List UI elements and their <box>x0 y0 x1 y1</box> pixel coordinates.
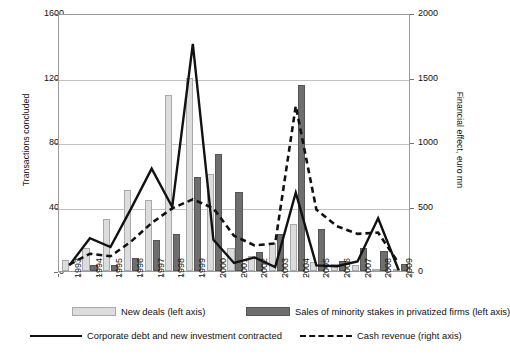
y-axis-left-tick-label: 0 <box>4 266 64 276</box>
x-axis-tick-mark <box>120 274 121 277</box>
x-axis-tick-mark <box>265 274 266 277</box>
y-axis-right-tick-label: 0 <box>418 266 478 276</box>
y-axis-left-tick-label: 1600 <box>4 8 64 18</box>
x-axis-tick-mark <box>306 274 307 277</box>
dark-bar-swatch-icon <box>246 307 290 316</box>
y-axis-right-tick-mark <box>410 143 414 144</box>
x-axis-tick-mark <box>348 274 349 277</box>
x-axis-tick-mark <box>369 274 370 277</box>
x-axis-tick-mark <box>286 274 287 277</box>
x-axis-tick-mark <box>58 274 59 277</box>
x-axis-tick-mark <box>410 274 411 277</box>
legend-item-minority-stakes: Sales of minority stakes in privatized f… <box>246 306 510 317</box>
x-axis-tick-mark <box>389 274 390 277</box>
y-axis-right-tick-label: 500 <box>418 202 478 212</box>
light-bar-swatch-icon <box>72 307 116 316</box>
solid-line-swatch-icon <box>30 335 82 337</box>
legend-label-corporate-debt: Corporate debt and new investment contra… <box>87 330 282 341</box>
x-axis-ticks: 1993199419951996199719981999200020012002… <box>58 274 410 308</box>
legend-row-top: New deals (left axis) Sales of minority … <box>0 306 478 324</box>
line-series-overlay <box>59 15 409 271</box>
legend-label-cash-revenue: Cash revenue (right axis) <box>357 330 462 341</box>
x-axis-tick-mark <box>224 274 225 277</box>
y-axis-left-tick-label: 800 <box>4 137 64 147</box>
legend-item-new-deals: New deals (left axis) <box>72 306 205 317</box>
y-axis-right-tick-mark <box>410 208 414 209</box>
legend-item-corporate-debt: Corporate debt and new investment contra… <box>30 330 282 341</box>
legend-row-bottom: Corporate debt and new investment contra… <box>0 330 478 348</box>
x-axis-tick-mark <box>182 274 183 277</box>
y-axis-right-tick-label: 1000 <box>418 137 478 147</box>
x-axis-tick-mark <box>203 274 204 277</box>
y-axis-right-tick-label: 1500 <box>418 73 478 83</box>
x-axis-tick-mark <box>327 274 328 277</box>
y-axis-right-tick-mark <box>410 79 414 80</box>
x-axis-tick-mark <box>162 274 163 277</box>
y-axis-left-tick-mark <box>54 272 58 273</box>
x-axis-tick-mark <box>79 274 80 277</box>
x-axis-tick-mark <box>99 274 100 277</box>
dashed-line-swatch-icon <box>300 335 352 337</box>
legend-item-cash-revenue: Cash revenue (right axis) <box>300 330 462 341</box>
y-axis-right-tick-label: 2000 <box>418 8 478 18</box>
plot-area <box>58 14 410 272</box>
x-axis-tick-mark <box>141 274 142 277</box>
y-axis-left-tick-label: 400 <box>4 202 64 212</box>
legend-label-new-deals: New deals (left axis) <box>121 306 205 317</box>
x-axis-tick-mark <box>244 274 245 277</box>
y-axis-right-tick-mark <box>410 14 414 15</box>
y-axis-left-tick-label: 1200 <box>4 73 64 83</box>
legend-label-minority-stakes: Sales of minority stakes in privatized f… <box>295 306 510 317</box>
chart-legend: New deals (left axis) Sales of minority … <box>0 306 478 354</box>
line-cash-revenue <box>69 106 398 265</box>
